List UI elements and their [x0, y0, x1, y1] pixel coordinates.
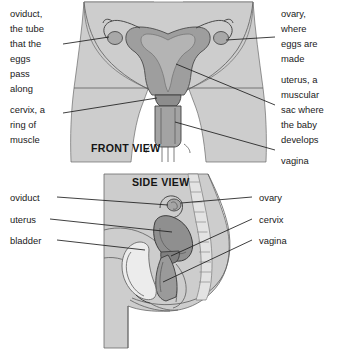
- cervix-front: [155, 95, 181, 106]
- label-ovary-side: ovary: [259, 192, 282, 203]
- label-vagina-front: vagina: [281, 155, 309, 166]
- label-bladder-side: bladder: [10, 235, 41, 246]
- label-uterus-front-line3: sac where: [281, 104, 324, 115]
- ovary-left: [108, 32, 123, 45]
- front-view-panel: FRONT VIEW oviduct, the tube that the eg…: [10, 2, 324, 166]
- label-cervix-side: cervix: [259, 214, 284, 225]
- ovary-right: [214, 32, 229, 45]
- label-uterus-front-line1: uterus, a: [281, 74, 318, 85]
- label-uterus-front-line5: develops: [281, 134, 319, 145]
- label-cervix-front-line3: muscle: [10, 134, 40, 145]
- label-oviduct-front-line5: pass: [10, 68, 30, 79]
- label-cervix-front-line2: ring of: [10, 119, 36, 130]
- label-oviduct-front-line4: eggs: [10, 53, 31, 64]
- label-uterus-front-line4: the baby: [281, 119, 317, 130]
- label-ovary-front-line3: eggs are: [281, 38, 317, 49]
- label-oviduct-front-line1: oviduct,: [10, 8, 42, 19]
- side-right-labels: ovary cervix vagina: [259, 192, 287, 246]
- label-uterus-front-line2: muscular: [281, 89, 319, 100]
- label-vagina-side: vagina: [259, 235, 287, 246]
- label-oviduct-side: oviduct: [10, 192, 40, 203]
- label-ovary-front-line1: ovary,: [281, 8, 306, 19]
- vagina-front: [155, 106, 181, 147]
- side-left-labels: oviduct uterus bladder: [10, 192, 41, 246]
- label-oviduct-front-line6: along: [10, 83, 33, 94]
- side-view-caption: SIDE VIEW: [132, 176, 189, 188]
- front-right-labels: ovary, where eggs are made uterus, a mus…: [280, 8, 324, 166]
- label-ovary-front-line2: where: [280, 23, 307, 34]
- front-left-labels: oviduct, the tube that the eggs pass alo…: [10, 8, 46, 145]
- front-view-caption: FRONT VIEW: [91, 142, 161, 154]
- anatomy-figure: FRONT VIEW oviduct, the tube that the eg…: [0, 0, 337, 351]
- label-ovary-front-line4: made: [281, 53, 304, 64]
- label-cervix-front-line1: cervix, a: [10, 104, 46, 115]
- label-oviduct-front-line2: the tube: [10, 23, 44, 34]
- label-uterus-side: uterus: [10, 214, 36, 225]
- side-view-panel: SIDE VIEW oviduct uterus bladder ovary c…: [10, 174, 287, 348]
- label-oviduct-front-line3: that the: [10, 38, 41, 49]
